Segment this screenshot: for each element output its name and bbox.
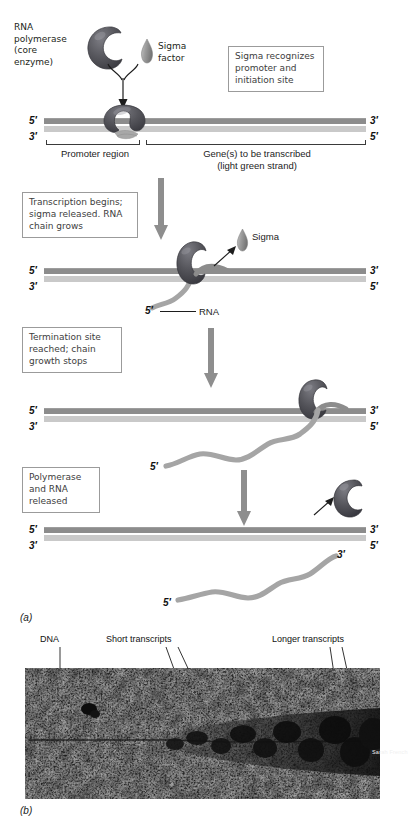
prime-5-right-step1: 5′: [370, 131, 378, 142]
dna-template-strand: [44, 118, 366, 124]
rna-polymerase-label: RNA polymerase (core enzyme): [14, 22, 84, 68]
sigma-factor-label: Sigma factor: [158, 41, 206, 64]
prime-3-left-step3: 3′: [29, 421, 37, 432]
prime-3-left-step2: 3′: [29, 281, 37, 292]
prime-3-left-step4: 3′: [29, 540, 37, 551]
prime-3-right-step2: 3′: [370, 265, 378, 276]
rna-5-prime-step3: 5′: [150, 461, 158, 472]
gene-transcribed-label: Gene(s) to be transcribed (light green s…: [150, 148, 364, 171]
prime-5-left-step1: 5′: [29, 115, 37, 126]
polymerase-release-arrow-step4: [312, 497, 336, 517]
prime-5-right-step4: 5′: [370, 540, 378, 551]
callout-sigma-recognizes: Sigma recognizes promoter and initiation…: [228, 46, 324, 92]
promoter-region-label: Promoter region: [43, 148, 147, 160]
promoter-bracket: [46, 140, 140, 145]
rna-transcript-step3: [150, 408, 330, 474]
photo-credit-text: Sarah French: [372, 749, 408, 755]
dna-duplex-step1: [44, 118, 366, 132]
dna-template-strand: [44, 527, 366, 533]
flow-arrow-1: [153, 178, 169, 242]
photo-credit: Sarah French: [372, 740, 408, 758]
panel-b-letter: (b): [20, 805, 32, 816]
prime-3-right-step1: 3′: [370, 115, 378, 126]
flow-arrow-2: [203, 328, 219, 390]
prime-5-left-step4: 5′: [29, 524, 37, 535]
callout-polymerase-released: Polymerase and RNA released: [22, 467, 100, 513]
rna-5-prime-step4: 5′: [163, 597, 171, 608]
dna-coding-strand: [44, 535, 366, 541]
callout-transcription-begins: Transcription begins; sigma released. RN…: [22, 192, 138, 238]
rna-3-prime-step4: 3′: [337, 549, 345, 560]
dna-coding-strand: [44, 126, 366, 132]
prime-5-left-step3: 5′: [29, 405, 37, 416]
rna-transcript-released: [170, 552, 346, 608]
prime-3-right-step4: 3′: [370, 524, 378, 535]
rna-label-step2: RNA: [199, 306, 219, 318]
rna-leader-line-step2: [160, 311, 196, 312]
dna-duplex-step4: [44, 527, 366, 541]
prime-5-right-step2: 5′: [370, 281, 378, 292]
gene-bracket: [146, 140, 366, 145]
prime-5-right-step3: 5′: [370, 421, 378, 432]
sigma-label-step2: Sigma: [252, 231, 279, 243]
panel-a-letter: (a): [20, 612, 32, 623]
callout-termination-site: Termination site reached; chain growth s…: [22, 327, 122, 373]
sigma-release-arrow-step2: [212, 246, 238, 268]
prime-3-left-step1: 3′: [29, 131, 37, 142]
prime-5-left-step2: 5′: [29, 265, 37, 276]
prime-3-right-step3: 3′: [370, 405, 378, 416]
flow-arrow-3: [236, 470, 252, 528]
rna-5-prime-step2: 5′: [145, 305, 153, 316]
electron-micrograph: [25, 668, 380, 799]
sigma-factor-icon: [140, 38, 154, 64]
